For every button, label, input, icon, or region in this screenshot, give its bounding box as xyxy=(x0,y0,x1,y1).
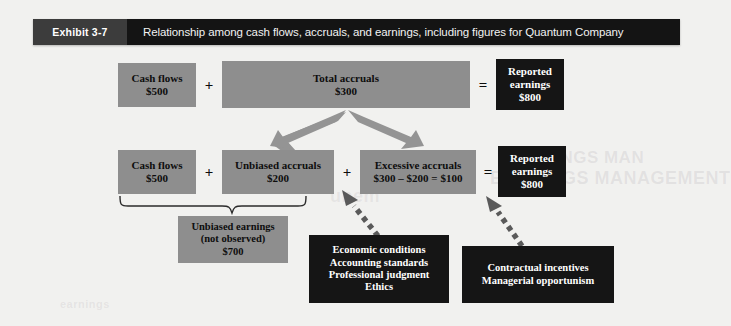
split-arrow-right xyxy=(348,110,424,149)
box-cash-flows-row1: Cash flows $500 xyxy=(118,63,196,107)
box-reported-earnings-row2: Reported earnings $800 xyxy=(498,146,566,197)
box-excessive-accruals: Excessive accruals $300 – $200 = $100 xyxy=(360,150,476,194)
unbiased-earnings-line1: Unbiased earnings xyxy=(191,221,274,233)
total-accruals-value: $300 xyxy=(335,85,357,98)
curly-brace xyxy=(120,196,306,213)
box-total-accruals: Total accruals $300 xyxy=(222,61,470,108)
box-cash-flows-row2: Cash flows $500 xyxy=(118,150,196,194)
reported-earnings-row1-line1: Reported xyxy=(508,65,552,78)
split-arrow-left xyxy=(270,110,346,152)
reported-earnings-row1-value: $800 xyxy=(519,91,541,104)
box-factors-right: Contractual incentives Managerial opport… xyxy=(462,246,614,303)
unbiased-earnings-line2: (not observed) xyxy=(201,233,265,245)
operator-equals-row1: = xyxy=(472,63,494,107)
dotted-arrow-right xyxy=(498,212,522,246)
cash-flows-row1-value: $500 xyxy=(146,85,168,98)
factors-left-item-3: Ethics xyxy=(365,281,393,293)
box-unbiased-accruals: Unbiased accruals $200 xyxy=(222,150,334,194)
factors-right-item-0: Contractual incentives xyxy=(487,262,588,274)
cash-flows-row1-label: Cash flows xyxy=(131,72,182,85)
cash-flows-row2-value: $500 xyxy=(146,172,168,185)
box-factors-left: Economic conditions Accounting standards… xyxy=(309,235,449,303)
cash-flows-row2-label: Cash flows xyxy=(131,159,182,172)
reported-earnings-row1-line2: earnings xyxy=(510,78,550,91)
unbiased-accruals-value: $200 xyxy=(267,172,289,185)
operator-plus-row1: + xyxy=(198,63,220,107)
unbiased-earnings-value: $700 xyxy=(223,246,244,258)
box-unbiased-earnings: Unbiased earnings (not observed) $700 xyxy=(178,216,288,263)
box-reported-earnings-row1: Reported earnings $800 xyxy=(496,59,564,110)
factors-left-item-2: Professional judgment xyxy=(329,269,429,281)
reported-earnings-row2-line1: Reported xyxy=(510,152,554,165)
factors-right-item-1: Managerial opportunism xyxy=(482,275,594,287)
total-accruals-label: Total accruals xyxy=(313,72,379,85)
dotted-arrow-right-head xyxy=(486,196,502,212)
dotted-arrow-left xyxy=(354,206,378,236)
factors-left-item-1: Accounting standards xyxy=(330,257,428,269)
excessive-accruals-label: Excessive accruals xyxy=(375,159,461,172)
operator-plus-row2-second: + xyxy=(336,150,358,194)
unbiased-accruals-label: Unbiased accruals xyxy=(235,159,321,172)
factors-left-item-0: Economic conditions xyxy=(332,244,425,256)
reported-earnings-row2-value: $800 xyxy=(521,178,543,191)
operator-equals-row2: = xyxy=(478,150,498,194)
operator-plus-row2-first: + xyxy=(198,150,220,194)
excessive-accruals-value: $300 – $200 = $100 xyxy=(374,172,463,185)
reported-earnings-row2-line2: earnings xyxy=(512,165,552,178)
